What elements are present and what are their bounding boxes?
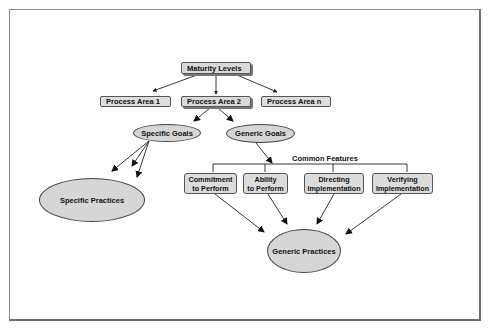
feature-line-2: to Perform (247, 184, 283, 193)
feature-directing-implementation: Directing Implementation (304, 173, 364, 194)
feature-line-2: to Perform (192, 184, 228, 193)
node-process-area-2: Process Area 2 (181, 96, 251, 107)
common-features-label: Common Features (292, 154, 358, 163)
node-specific-practices: Specific Practices (39, 178, 145, 222)
feature-line-1: Directing (318, 175, 349, 184)
feature-line-1: Ability (255, 175, 277, 184)
feature-line-2: Implementation (376, 184, 429, 193)
feature-line-1: Verifying (387, 175, 417, 184)
feature-verifying-implementation: Verifying Implementation (372, 173, 433, 194)
feature-commitment-to-perform: Commitment to Perform (184, 173, 237, 194)
feature-line-1: Commitment (189, 175, 233, 184)
feature-ability-to-perform: Ability to Perform (243, 173, 288, 194)
node-process-area-n: Process Area n (261, 96, 331, 107)
node-maturity-levels: Maturity Levels (181, 62, 251, 74)
feature-line-2: Implementation (307, 184, 360, 193)
node-generic-goals: Generic Goals (226, 124, 295, 143)
node-specific-goals: Specific Goals (133, 124, 201, 142)
diagram-frame (9, 9, 481, 321)
node-process-area-1: Process Area 1 (100, 96, 171, 107)
node-generic-practices: Generic Practices (267, 229, 341, 273)
